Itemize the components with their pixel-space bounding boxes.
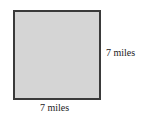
side-length-label: 7 miles — [106, 48, 135, 58]
bottom-length-label: 7 miles — [40, 103, 69, 113]
square-shape — [13, 10, 101, 100]
